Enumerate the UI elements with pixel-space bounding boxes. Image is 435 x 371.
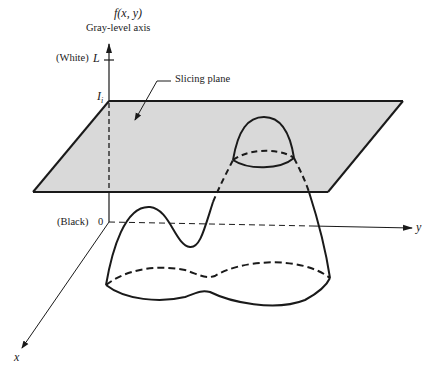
y-axis-label: y <box>416 220 421 235</box>
axis-title: Gray-level axis <box>86 22 150 33</box>
slicing-plane-label: Slicing plane <box>175 73 230 84</box>
slicing-plane <box>33 101 403 192</box>
surface-base-back <box>106 262 330 285</box>
level-subscript: i <box>101 96 103 105</box>
function-label: f(x, y) <box>114 6 142 21</box>
level-label: Ii <box>97 89 103 105</box>
surface-lower <box>106 192 330 305</box>
white-value: L <box>93 51 100 66</box>
x-axis <box>22 222 109 348</box>
gray-level-slicing-diagram: f(x, y) Gray-level axis (White) L Ii Sli… <box>0 0 435 371</box>
black-value: 0 <box>98 216 103 227</box>
x-axis-label: x <box>14 350 19 365</box>
y-axis <box>109 222 412 228</box>
white-label: (White) <box>56 52 89 63</box>
black-label: (Black) <box>57 216 89 227</box>
